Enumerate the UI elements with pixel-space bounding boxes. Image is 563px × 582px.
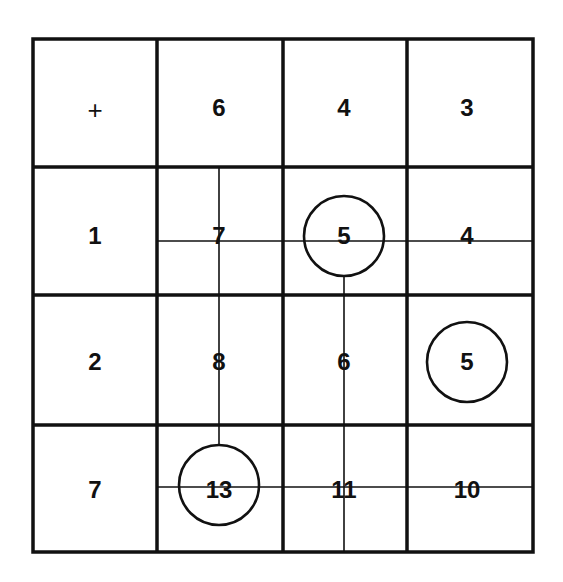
cell-r1c3: 4 [460,224,473,248]
cell-r2c2: 6 [337,350,350,374]
cell-r3c2: 11 [331,478,356,502]
cell-r2c1: 8 [212,350,225,374]
operator-plus: + [87,97,102,123]
cell-r3c3: 10 [454,478,481,502]
row-header-1: 1 [88,224,101,248]
cell-r2c3: 5 [460,350,473,374]
addition-grid-diagram: + 6 4 3 1 2 7 7 5 4 8 6 5 13 11 10 [0,0,563,582]
col-header-2: 4 [337,96,350,120]
col-header-3: 3 [460,96,473,120]
col-header-1: 6 [212,96,225,120]
row-header-3: 7 [88,478,101,502]
row-header-2: 2 [88,350,101,374]
cell-r1c1: 7 [212,224,225,248]
cell-r3c1: 13 [206,478,233,502]
cell-r1c2: 5 [337,224,350,248]
